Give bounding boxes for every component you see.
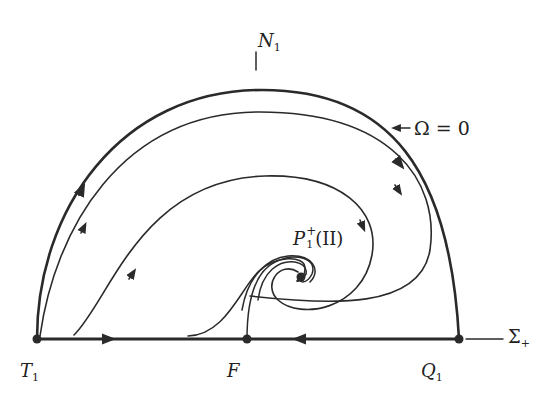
label-sigma-plus: Σ+	[508, 326, 530, 350]
label-T1: T1	[20, 360, 39, 384]
spiral-inner-1	[188, 259, 305, 336]
spiral-inner-2	[247, 257, 313, 339]
label-P1-plus-II: P+1(II)	[293, 228, 343, 249]
equilibrium-P1	[297, 273, 306, 282]
equilibrium-Q1	[455, 335, 464, 344]
orbit-3	[74, 176, 373, 335]
phase-portrait-diagram	[0, 0, 557, 401]
label-Q1: Q1	[421, 360, 443, 384]
label-omega-zero: Ω = 0	[414, 117, 470, 139]
equilibrium-F	[243, 335, 252, 344]
label-F: F	[227, 360, 240, 381]
omega-zero-boundary	[37, 90, 459, 339]
label-N1: N1	[258, 30, 281, 54]
equilibrium-T1	[33, 335, 42, 344]
